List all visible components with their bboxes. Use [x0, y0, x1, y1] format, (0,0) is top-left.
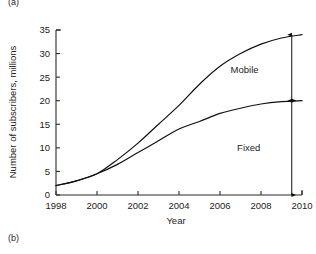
chart-series-lines — [56, 35, 302, 186]
x-tick-label: 2004 — [168, 200, 189, 211]
chart-axes — [56, 30, 302, 195]
x-axis-title: Year — [166, 215, 185, 226]
y-tick-label: 0 — [45, 189, 50, 200]
x-tick-label: 2006 — [209, 200, 230, 211]
x-axis-ticks: 1998200020022004200620082010 — [45, 191, 312, 211]
figure-panel: (a) 05101520253035 199820002002200420062… — [0, 0, 316, 254]
y-axis-ticks: 05101520253035 — [39, 24, 60, 200]
x-tick-label: 1998 — [45, 200, 66, 211]
y-tick-label: 10 — [39, 142, 50, 153]
subscribers-line-chart: 05101520253035 1998200020022004200620082… — [0, 0, 316, 254]
x-tick-label: 2002 — [127, 200, 148, 211]
y-tick-label: 25 — [39, 72, 50, 83]
series-line-mobile — [56, 35, 302, 186]
x-tick-label: 2010 — [291, 200, 312, 211]
panel-label-b: (b) — [8, 233, 19, 243]
y-tick-label: 20 — [39, 95, 50, 106]
series-line-fixed — [56, 101, 302, 186]
y-tick-label: 5 — [45, 166, 50, 177]
x-tick-label: 2000 — [86, 200, 107, 211]
y-tick-label: 35 — [39, 24, 50, 35]
annotation-label-fixed: Fixed — [237, 142, 260, 153]
y-axis-title: Number of subscribers, millions — [7, 45, 18, 178]
annotation-label-mobile: Mobile — [231, 64, 259, 75]
chart-annotations: MobileFixed — [231, 35, 292, 195]
y-tick-label: 15 — [39, 119, 50, 130]
y-tick-label: 30 — [39, 48, 50, 59]
x-tick-label: 2008 — [250, 200, 271, 211]
